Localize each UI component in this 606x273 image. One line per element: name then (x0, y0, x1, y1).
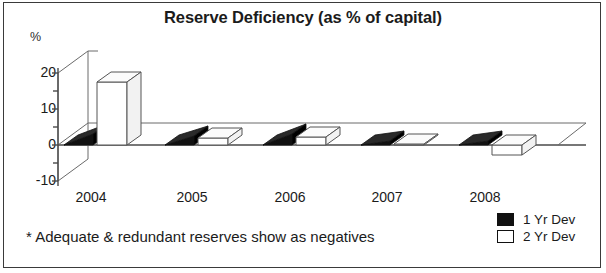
legend-label-2yr-dev: 2 Yr Dev (523, 229, 575, 244)
bar-2004-2yr-dev (97, 72, 141, 145)
legend-swatch-black-icon (497, 213, 514, 226)
bar-2008-2yr-dev (492, 135, 536, 155)
legend-item-2yr-dev: 2 Yr Dev (497, 228, 575, 245)
chart-container: Reserve Deficiency (as % of capital) % 2… (0, 0, 606, 273)
legend-swatch-white-icon (497, 230, 514, 243)
chart-footnote: * Adequate & redundant reserves show as … (26, 228, 375, 245)
chart-legend: 1 Yr Dev 2 Yr Dev (497, 211, 575, 245)
legend-item-1yr-dev: 1 Yr Dev (497, 211, 575, 228)
y-axis (52, 68, 58, 186)
legend-label-1yr-dev: 1 Yr Dev (523, 212, 575, 227)
